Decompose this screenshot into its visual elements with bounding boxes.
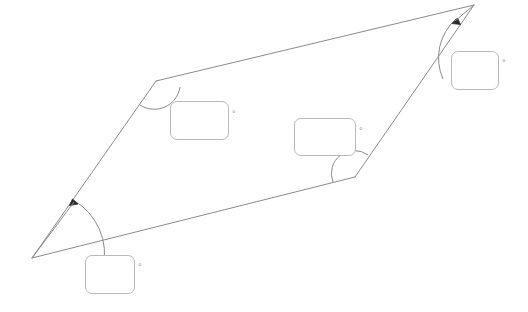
figure-canvas: ° ° ° ° xyxy=(0,0,528,312)
parallelogram-figure xyxy=(0,0,528,312)
parallelogram-outline xyxy=(32,5,474,258)
edge-topleft-topright xyxy=(156,5,474,81)
angle-input-top-left[interactable] xyxy=(170,101,229,140)
angle-leg-bottom-left xyxy=(32,202,74,258)
angle-input-bottom-left[interactable] xyxy=(85,255,135,294)
angle-input-top-right[interactable] xyxy=(451,51,499,90)
edge-topright-bottomright xyxy=(355,5,474,177)
angle-input-bottom-right[interactable] xyxy=(294,118,356,156)
